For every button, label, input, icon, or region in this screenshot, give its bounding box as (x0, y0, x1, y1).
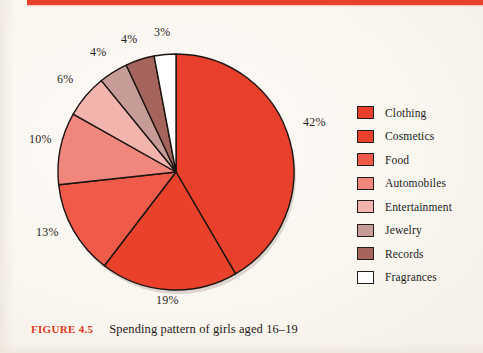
pie-label-food: 13% (36, 225, 59, 240)
pie-label-jewelry: 4% (90, 45, 106, 60)
figure-caption: FIGURE 4.5 Spending pattern of girls age… (31, 322, 298, 337)
legend-item: Jewelry (357, 219, 483, 243)
legend-item: Entertainment (357, 195, 483, 219)
pie-chart-svg (54, 50, 298, 294)
legend-item: Clothing (357, 101, 483, 125)
legend-swatch (357, 106, 374, 119)
legend-item-label: Fragrances (385, 271, 437, 283)
legend: ClothingCosmeticsFoodAutomobilesEntertai… (357, 101, 483, 289)
pie-label-clothing: 42% (303, 115, 326, 130)
pie-label-records: 4% (121, 32, 137, 47)
legend-swatch (357, 153, 374, 166)
pie-label-fragrances: 3% (154, 25, 170, 40)
legend-swatch (357, 200, 374, 213)
legend-swatch (357, 177, 374, 190)
pie-chart (54, 50, 298, 294)
page-edge-shading-left (0, 0, 14, 353)
legend-item-label: Jewelry (385, 224, 422, 236)
figure-page: 42% 19% 13% 10% 6% 4% 4% 3% ClothingCosm… (0, 0, 483, 353)
legend-swatch (357, 247, 374, 260)
pie-label-cosmetics: 19% (156, 293, 179, 308)
figure-number: FIGURE 4.5 (31, 323, 93, 335)
legend-item: Food (357, 148, 483, 172)
legend-swatch (357, 224, 374, 237)
legend-swatch (357, 130, 374, 143)
legend-item: Fragrances (357, 266, 483, 290)
legend-item: Automobiles (357, 172, 483, 196)
legend-item-label: Entertainment (385, 201, 452, 213)
pie-label-entertainment: 6% (57, 72, 73, 87)
top-red-rule-shadow (27, 5, 483, 7)
legend-item-label: Clothing (385, 107, 426, 119)
legend-item-label: Food (385, 154, 409, 166)
pie-label-automobiles: 10% (29, 132, 52, 147)
page-edge-shading-bottom (0, 343, 483, 353)
figure-caption-text: Spending pattern of girls aged 16–19 (109, 322, 298, 337)
pie-slice-group (58, 54, 296, 294)
legend-item-label: Records (385, 248, 424, 260)
legend-item: Records (357, 242, 483, 266)
legend-item-label: Cosmetics (385, 130, 434, 142)
legend-item: Cosmetics (357, 125, 483, 149)
legend-swatch (357, 271, 374, 284)
legend-item-label: Automobiles (385, 177, 446, 189)
